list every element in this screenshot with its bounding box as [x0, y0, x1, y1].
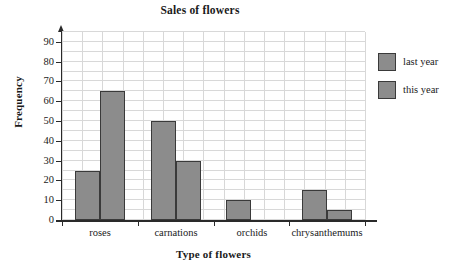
- x-tick-mark: [214, 220, 215, 226]
- gridline-vertical: [62, 32, 63, 220]
- y-tick-label: 80: [32, 57, 54, 67]
- gridline-vertical: [224, 32, 225, 220]
- y-tick-label: 60: [32, 96, 54, 106]
- legend-item: this year: [378, 80, 439, 99]
- gridline-vertical: [143, 32, 144, 220]
- y-tick-label: 70: [32, 76, 54, 86]
- bar: [100, 91, 125, 220]
- bar: [327, 210, 352, 220]
- gridline-vertical: [365, 32, 366, 220]
- chart-legend: last yearthis year: [378, 52, 439, 108]
- bar: [302, 190, 327, 220]
- legend-label: this year: [403, 84, 439, 96]
- y-tick-label: 10: [32, 195, 54, 205]
- y-tick-label: 40: [32, 136, 54, 146]
- y-tick-mark: [56, 200, 62, 201]
- gridline-horizontal: [62, 51, 365, 52]
- x-tick-mark: [289, 220, 290, 226]
- gridline-vertical: [244, 32, 245, 220]
- gridline-vertical: [203, 32, 204, 220]
- x-axis-line: [56, 220, 377, 222]
- y-axis-title: Frequency: [12, 42, 24, 162]
- y-tick-mark: [56, 161, 62, 162]
- y-tick-mark: [56, 62, 62, 63]
- y-tick-mark: [56, 81, 62, 82]
- bar: [75, 171, 100, 220]
- y-tick-mark: [56, 141, 62, 142]
- x-tick-mark: [62, 220, 63, 226]
- gridline-horizontal: [62, 61, 365, 62]
- gridline-horizontal: [62, 41, 365, 42]
- gridline-vertical: [264, 32, 265, 220]
- y-tick-label: 0: [32, 215, 54, 225]
- y-tick-label: 90: [32, 37, 54, 47]
- y-tick-label: 30: [32, 156, 54, 166]
- chart-title: Sales of flowers: [0, 4, 400, 16]
- y-tick-mark: [56, 121, 62, 122]
- gridline-horizontal: [62, 80, 365, 81]
- y-tick-mark: [56, 180, 62, 181]
- bar-chart: Sales of flowers 0102030405060708090 Fre…: [0, 0, 463, 272]
- bar: [151, 121, 176, 220]
- gridline-horizontal: [62, 31, 365, 32]
- gridline-horizontal: [62, 71, 365, 72]
- y-tick-mark: [56, 42, 62, 43]
- x-axis-title: Type of flowers: [62, 248, 365, 260]
- gridline-vertical: [345, 32, 346, 220]
- x-category-label: chrysanthemums: [269, 227, 385, 239]
- legend-swatch: [378, 53, 396, 71]
- legend-item: last year: [378, 52, 439, 71]
- x-tick-mark: [365, 220, 366, 226]
- x-tick-mark: [138, 220, 139, 226]
- y-tick-mark: [56, 101, 62, 102]
- bar: [226, 200, 251, 220]
- legend-label: last year: [403, 56, 438, 68]
- bar: [176, 161, 201, 220]
- y-tick-label: 20: [32, 175, 54, 185]
- gridline-vertical: [284, 32, 285, 220]
- legend-swatch: [378, 81, 396, 99]
- y-tick-label: 50: [32, 116, 54, 126]
